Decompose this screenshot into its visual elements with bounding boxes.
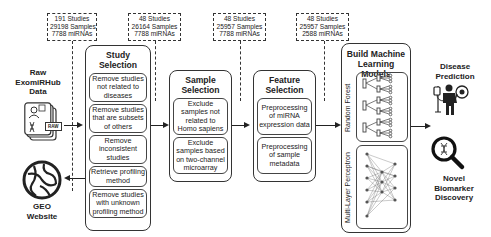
random-forest-label: Random Forest [344,74,351,142]
feature-selection-stage: Feature Selection Preprocessing of miRNA… [253,70,316,182]
step-exclude-two-channel: Exclude samples based on two-channel mic… [173,137,228,174]
patient-iv-icon [432,82,472,116]
biomarker-label-line2: Biomarker [423,184,485,194]
study-selection-title: Study Selection [86,50,150,70]
arrow-sample-to-feature [232,125,248,126]
count-box-raw: 191 Studies 29198 Samples 7788 miRNAs [47,13,97,41]
studies-count: 191 Studies [50,15,94,23]
step-remove-unrelated-studies: Remove studies not related to diseases [89,73,147,102]
connector-dashed-3 [240,41,241,101]
disease-label-line2: Prediction [425,72,485,82]
ml-title-line1: Build Machine [342,49,410,59]
studies-count: 48 Studies [299,15,346,23]
arrow-ml-to-outputs [411,126,429,127]
sample-title-line1: Sample [170,75,231,85]
random-forest-panel [356,72,408,142]
count-box-sample: 48 Studies 25957 Samples 7788 miRNAs [213,13,266,41]
neural-network-icon [357,146,407,228]
raw-label-line3: Data [14,87,62,97]
connector-dashed-4 [324,41,325,101]
arrow-raw-to-study [64,125,81,126]
connector-dashed-1 [72,41,73,191]
samples-count: 26164 Samples [131,23,178,31]
raw-data-label: Raw ExomiRHub Data [14,68,62,97]
samples-count: 29198 Samples [50,23,94,31]
connector-dashed-2 [155,41,156,101]
biomarker-discovery-label: Novel Biomarker Discovery [423,174,485,203]
step-remove-subset-studies: Remove studies that are subsets of other… [89,104,147,133]
mlp-panel [356,145,408,229]
mirnas-count: 7788 miRNAs [131,30,178,38]
document-stack-icon: RAW [24,102,70,144]
step-preprocess-mirna: Preprocessing of miRNA expression data [257,98,312,135]
step-remove-unknown-profiling: Remove studies with unknown profiling me… [89,189,147,218]
step-retrieve-profiling-method: Retrieve profiling method [89,166,147,187]
studies-count: 48 Studies [131,15,178,23]
samples-count: 25957 Samples [299,23,346,31]
step-preprocess-metadata: Preprocessing of sample metadata [257,137,312,174]
sample-title-line2: Selection [170,85,231,95]
geo-website-label: GEO Website [16,202,68,221]
feature-selection-title: Feature Selection [254,75,315,95]
samples-count: 25957 Samples [216,23,263,31]
arrow-study-to-sample [151,125,167,126]
mirnas-count: 2588 miRNAs [299,30,346,38]
geo-label-line1: GEO [16,202,68,212]
study-selection-stage: Study Selection Remove studies not relat… [85,45,151,231]
mlp-label: Multi-Layer Perceptron [344,146,351,230]
biomarker-label-line1: Novel [423,174,485,184]
count-box-feature: 48 Studies 25957 Samples 2588 miRNAs [296,13,349,41]
studies-count: 48 Studies [216,15,263,23]
raw-label-line1: Raw [14,68,62,78]
count-box-study: 48 Studies 26164 Samples 7788 miRNAs [128,13,181,41]
mirnas-count: 7788 miRNAs [216,30,263,38]
feature-title-line2: Selection [254,85,315,95]
random-forest-icon [357,73,407,141]
step-exclude-non-human: Exclude samples not related to Homo sapi… [173,98,228,135]
mirnas-count: 7788 miRNAs [50,30,94,38]
disease-label-line1: Disease [425,62,485,72]
raw-label-line2: ExomiRHub [14,78,62,88]
sample-selection-title: Sample Selection [170,75,231,95]
globe-icon [22,160,62,200]
biomarker-label-line3: Discovery [423,193,485,203]
arrow-feature-to-ml [316,125,339,126]
ml-models-stage: Build Machine Learning Models Random For… [341,43,411,233]
study-title-line1: Study [86,50,150,60]
arrow-geo-to-study [66,178,86,179]
step-remove-inconsistent-studies: Remove inconsistent studies [89,135,147,164]
study-title-line2: Selection [86,60,150,70]
disease-prediction-label: Disease Prediction [425,62,485,81]
magnifier-dna-icon [428,134,468,174]
geo-label-line2: Website [16,212,68,222]
raw-badge: RAW [45,122,62,131]
sample-selection-stage: Sample Selection Exclude samples not rel… [169,70,232,182]
feature-title-line1: Feature [254,75,315,85]
